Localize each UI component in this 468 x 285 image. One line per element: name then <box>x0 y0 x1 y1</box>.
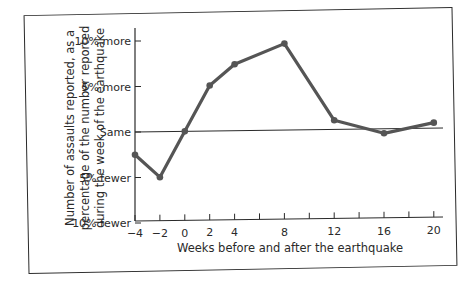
x-tick-label: 8 <box>281 226 288 239</box>
x-tick-label: −4 <box>127 227 143 240</box>
data-point <box>132 151 139 158</box>
line-chart: 10% fewer5% fewerSame5% more10% more−4−2… <box>0 0 468 285</box>
data-series <box>132 40 437 180</box>
x-tick-label: 12 <box>327 225 341 238</box>
axes <box>135 28 443 223</box>
series-line <box>135 44 434 178</box>
y-axis-title-line: Number of assaults reported, as a <box>63 30 77 226</box>
x-axis-line <box>135 217 443 221</box>
x-tick-label: 4 <box>231 226 238 239</box>
y-axis-title-line: percentage of the number reported <box>78 26 92 230</box>
x-tick-label: 0 <box>181 227 188 240</box>
x-axis-title: Weeks before and after the earthquake <box>177 241 403 255</box>
data-point <box>206 82 213 89</box>
axis-labels: 10% fewer5% fewerSame5% more10% more−4−2… <box>63 26 441 255</box>
data-point <box>331 117 338 124</box>
data-point <box>381 130 388 137</box>
y-axis-title-line: during the week of the earthquake <box>93 28 107 228</box>
x-tick-label: 2 <box>206 226 213 239</box>
data-point <box>182 128 189 135</box>
data-point <box>157 174 164 181</box>
data-point <box>431 119 438 126</box>
data-point <box>281 40 288 47</box>
x-tick-label: −2 <box>152 227 168 240</box>
data-point <box>231 61 238 68</box>
x-tick-label: 16 <box>377 225 391 238</box>
x-tick-label: 20 <box>427 224 441 237</box>
